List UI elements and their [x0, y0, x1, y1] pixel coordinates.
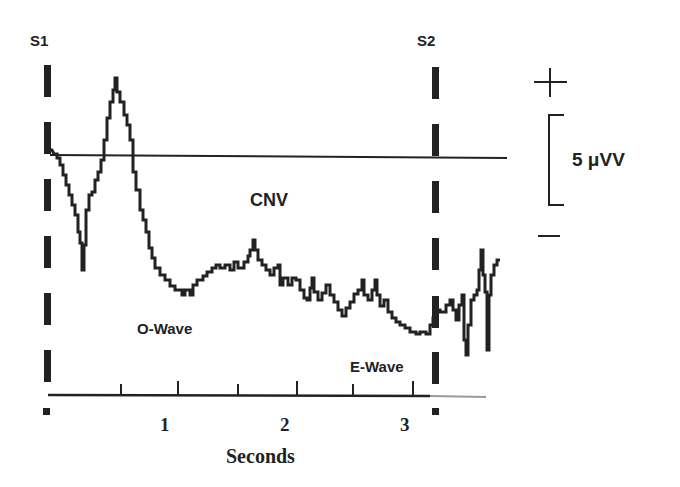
cnv-label: CNV: [250, 190, 288, 210]
s2-marker: [432, 67, 439, 415]
s1-marker: [43, 65, 51, 415]
x-tick-3: 3: [400, 414, 410, 435]
x-tick-2: 2: [280, 414, 290, 435]
o-wave-label: O-Wave: [137, 320, 192, 337]
x-axis: [48, 381, 486, 397]
s2-label: S2: [417, 32, 435, 49]
x-axis-title: Seconds: [226, 445, 295, 467]
polarity-scale: [534, 68, 567, 236]
scale-bar-label: 5 μVV: [572, 149, 625, 170]
erp-chart: S1 S2 5 μVV CNV O-Wave E-Wave: [0, 0, 680, 487]
x-tick-1: 1: [160, 414, 170, 435]
s1-label: S1: [30, 32, 48, 49]
e-wave-label: E-Wave: [350, 358, 404, 375]
